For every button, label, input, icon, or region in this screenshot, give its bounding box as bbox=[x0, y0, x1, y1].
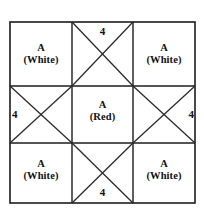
count-label-top-center: 4 bbox=[72, 25, 133, 37]
cell-label-top-left: A (White) bbox=[10, 42, 72, 66]
cell-label-bottom-right-line1: A bbox=[133, 158, 195, 170]
count-label-bottom-center: 4 bbox=[72, 186, 133, 198]
cell-label-top-right: A (White) bbox=[133, 42, 195, 66]
count-value-top-center: 4 bbox=[100, 25, 106, 37]
cell-label-top-right-line1: A bbox=[133, 42, 195, 54]
cell-label-top-left-line2: (White) bbox=[10, 54, 72, 66]
label-layer: A (White) 4 A (White) 4 A (Red) 4 A (Whi… bbox=[0, 0, 204, 215]
count-label-middle-left: 4 bbox=[12, 108, 26, 120]
cell-label-middle-center-line2: (Red) bbox=[72, 111, 133, 123]
cell-label-top-right-line2: (White) bbox=[133, 54, 195, 66]
cell-label-bottom-left-line2: (White) bbox=[10, 170, 72, 182]
cell-label-bottom-left: A (White) bbox=[10, 158, 72, 182]
cell-label-bottom-right-line2: (White) bbox=[133, 170, 195, 182]
cell-label-top-left-line1: A bbox=[10, 42, 72, 54]
count-value-middle-right: 4 bbox=[189, 108, 195, 120]
count-label-middle-right: 4 bbox=[180, 108, 194, 120]
count-value-middle-left: 4 bbox=[12, 108, 18, 120]
cell-label-middle-center-line1: A bbox=[72, 99, 133, 111]
cell-label-middle-center: A (Red) bbox=[72, 99, 133, 123]
cell-label-bottom-left-line1: A bbox=[10, 158, 72, 170]
cell-label-bottom-right: A (White) bbox=[133, 158, 195, 182]
grid-diagram: A (White) 4 A (White) 4 A (Red) 4 A (Whi… bbox=[0, 0, 204, 215]
count-value-bottom-center: 4 bbox=[100, 186, 106, 198]
